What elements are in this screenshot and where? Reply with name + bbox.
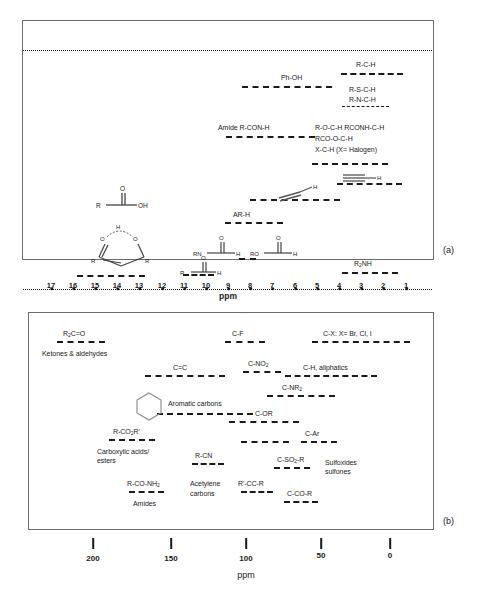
panel-b-tick-0 xyxy=(389,538,391,549)
label-c-so2-r-rest: -R xyxy=(297,456,304,463)
axis-number-5: 5 xyxy=(315,281,319,290)
label-sulfoxides-line1: Sulfoxides xyxy=(325,459,357,468)
label-c-c-double: C=C xyxy=(173,364,187,373)
label-r-c-h: R-C-H xyxy=(356,61,376,70)
range-bar-r-c-h xyxy=(341,73,403,75)
label-c-nr2: C-NR2 xyxy=(282,384,302,394)
label-c-nr2-base: C-NR xyxy=(282,384,299,391)
label-r2c-o: R2C=O xyxy=(63,330,85,340)
label-ph-oh: Ph-OH xyxy=(281,74,302,83)
panel-b-axis-title: ppm xyxy=(237,570,255,580)
range-bar-x-c-h xyxy=(312,163,388,165)
svg-text:O: O xyxy=(201,255,206,261)
axis-number-12: 12 xyxy=(158,281,166,290)
svg-text:H: H xyxy=(236,251,240,257)
label-r2nh: R2NH xyxy=(354,260,372,270)
axis-number-6: 6 xyxy=(293,281,297,290)
range-bar-amides xyxy=(129,491,164,493)
label-r-n-c-h: R-N-C-H xyxy=(349,96,376,105)
axis-number-8: 8 xyxy=(248,281,252,290)
panel-a-top-dotted-line xyxy=(23,50,432,51)
panel-b-carbon-nmr: R2C=O Ketones & aldehydes C-F C-X: X= Br… xyxy=(28,312,434,530)
panel-b-tick-150 xyxy=(170,538,172,549)
label-c-or: C-OR xyxy=(255,410,273,419)
axis-number-3: 3 xyxy=(359,281,363,290)
axis-number-11: 11 xyxy=(180,281,188,290)
axis-number-2: 2 xyxy=(381,281,385,290)
label-r2nh-nh: NH xyxy=(362,260,372,267)
label-r-cc-r: R'-CC-R xyxy=(238,480,264,489)
label-c-no2: C-NO2 xyxy=(248,360,268,370)
label-r-co-nh2: R-CO-NH2 xyxy=(127,480,160,490)
svg-text:O: O xyxy=(133,236,138,242)
structure-alkyne: H xyxy=(341,169,389,187)
structure-alkene: H xyxy=(276,182,324,204)
label-c-f: C-F xyxy=(232,330,244,339)
range-bar-r2c-o xyxy=(57,341,105,343)
range-bar-c-nr2 xyxy=(267,395,335,397)
panel-a-axis-title: ppm xyxy=(219,291,237,301)
axis-number-7: 7 xyxy=(270,281,274,290)
label-c-h-aliphatics: C-H, aliphatics xyxy=(303,364,348,373)
axis-number-4: 4 xyxy=(337,281,341,290)
svg-text:H: H xyxy=(116,224,120,230)
label-r2c-o-rest: C=O xyxy=(71,330,85,337)
label-c-so2-r-base: C-SO xyxy=(277,456,294,463)
panel-a-proton-nmr: R-C-H Ph-OH R-S-C-H R-N-C-H Amide R-CON-… xyxy=(22,20,434,260)
label-c-ar: C-Ar xyxy=(305,430,319,439)
range-bar-c-h-aliphatics xyxy=(285,375,377,377)
svg-text:RO: RO xyxy=(250,251,259,257)
structure-benzene-ring xyxy=(135,391,163,421)
svg-text:H: H xyxy=(313,184,317,190)
label-rco2r-rest: R' xyxy=(133,428,139,435)
label-c-no2-subscript: 2 xyxy=(266,362,269,368)
range-bar-c-or xyxy=(229,421,299,423)
axis-number-14: 14 xyxy=(113,281,121,290)
axis-number-17: 17 xyxy=(47,281,55,290)
panel-b-number-0: 0 xyxy=(388,551,392,560)
svg-text:R: R xyxy=(180,270,185,276)
label-r-co-nh2-base: R-CO-NH xyxy=(127,480,157,487)
range-bar-c-no2 xyxy=(243,371,281,373)
structure-carboxylic-acid: R O OH xyxy=(93,181,157,215)
panel-b-number-200: 200 xyxy=(86,554,99,563)
svg-text:H: H xyxy=(217,270,221,276)
range-bar-c-co-r xyxy=(284,501,318,503)
panel-b-tick-50 xyxy=(320,538,322,549)
axis-number-15: 15 xyxy=(91,281,99,290)
label-carboxylic-line1: Carboxylic acids/ xyxy=(97,448,149,457)
label-rco2r-base: R-CO xyxy=(113,428,131,435)
label-acetylene-line2: carbons xyxy=(190,490,215,499)
axis-number-1: 1 xyxy=(404,281,408,290)
axis-number-10: 10 xyxy=(202,281,210,290)
label-c-so2-r: C-SO2-R xyxy=(277,456,304,466)
svg-text:O: O xyxy=(100,236,105,242)
svg-text:OH: OH xyxy=(138,202,148,209)
range-bar-acetylene xyxy=(241,491,273,493)
svg-text:H: H xyxy=(293,251,297,257)
label-c-nr2-subscript: 2 xyxy=(299,386,302,392)
label-carboxylic-line2: esters xyxy=(97,457,116,466)
range-bar-r2nh xyxy=(342,272,398,274)
label-r-co-nh2-subscript: 2 xyxy=(157,482,160,488)
label-amide: Amide R-CON-H xyxy=(218,124,269,133)
label-ketones-aldehydes: Ketones & aldehydes xyxy=(42,350,107,359)
label-amides: Amides xyxy=(133,500,156,509)
svg-text:O: O xyxy=(219,235,224,241)
range-bar-c-so2-r-upper xyxy=(241,441,289,443)
label-r-o-c-h: R-O-C-H RCONH-C-H xyxy=(315,124,384,133)
range-bar-carboxylic-oh xyxy=(77,275,145,277)
svg-text:O: O xyxy=(120,185,125,192)
panel-b-tick-200 xyxy=(92,538,94,549)
axis-number-16: 16 xyxy=(69,281,77,290)
label-acetylene-line1: Acetylene xyxy=(190,480,220,489)
axis-number-9: 9 xyxy=(226,281,230,290)
range-bar-aromatic-carbons xyxy=(157,413,253,415)
structure-formate-ester: RO O H xyxy=(248,231,304,261)
range-bar-c-f xyxy=(225,341,265,343)
label-rco2r: R-CO2R' xyxy=(113,428,140,438)
label-rco-o-c-h: RCO-O-C-H xyxy=(315,135,353,144)
label-r-cn: R-CN xyxy=(195,452,212,461)
label-r-s-c-h: R-S-C-H xyxy=(349,86,375,95)
svg-text:R: R xyxy=(96,202,101,209)
